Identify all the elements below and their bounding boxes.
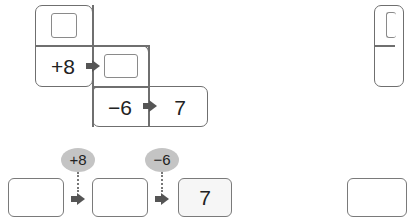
cropped-answer-box <box>386 12 396 38</box>
chain-box-1[interactable] <box>8 178 64 217</box>
arrow-right-icon <box>155 193 169 205</box>
row2-result: 7 <box>160 97 200 118</box>
row1-operator: +8 <box>43 56 83 77</box>
top-answer-box[interactable] <box>51 13 77 38</box>
divider-horizontal-2 <box>93 86 149 88</box>
arrow-right-icon <box>86 60 100 72</box>
arrow-right-icon <box>71 193 85 205</box>
chain-box-3-value: 7 <box>199 186 211 209</box>
row2-operator: −6 <box>100 97 140 118</box>
cropped-divider <box>375 45 395 47</box>
chain-box-2[interactable] <box>92 178 148 217</box>
row1-answer-box[interactable] <box>104 54 138 78</box>
cropped-chain-box <box>347 178 407 217</box>
operator-bubble-1: +8 <box>61 148 95 172</box>
arrow-right-icon <box>143 100 157 112</box>
dotted-connector-2 <box>161 172 163 192</box>
dotted-connector-1 <box>77 172 79 192</box>
chain-box-3: 7 <box>178 178 232 217</box>
operator-bubble-2: −6 <box>145 148 179 172</box>
